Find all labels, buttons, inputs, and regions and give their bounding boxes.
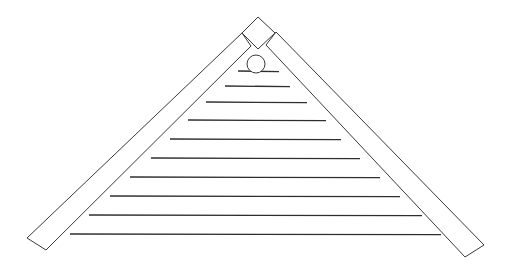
slat-line-2 [225, 86, 290, 87]
slat-line-5 [170, 139, 341, 140]
slat-line-3 [206, 102, 307, 103]
right-rafter-beam [266, 32, 484, 257]
slat-line-8 [110, 196, 400, 197]
slat-line-4 [188, 120, 326, 121]
gable-vent-diagram [0, 0, 512, 274]
diagram-canvas [0, 0, 512, 274]
slat-line-10 [70, 234, 441, 235]
slat-line-7 [130, 177, 380, 178]
slat-line-9 [89, 215, 422, 216]
left-rafter-beam [27, 33, 251, 250]
peak-pin-circle [247, 55, 265, 73]
slat-line-6 [151, 158, 360, 159]
